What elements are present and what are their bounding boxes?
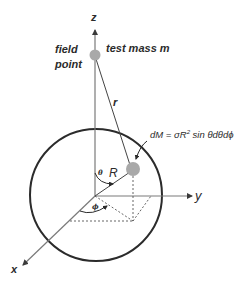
theta-label: θ (98, 169, 103, 176)
test-mass-dot (90, 50, 101, 61)
z-axis-label: z (91, 12, 97, 23)
mass-element-dM (126, 162, 140, 176)
field-point-label-line2: point (55, 59, 82, 70)
test-mass-label: test mass m (106, 43, 170, 54)
distance-line-r (96, 59, 130, 165)
shell-diagram: z y x field point test mass m r R θ ϕ dM… (0, 0, 252, 289)
field-point-label-line1: field (55, 44, 78, 55)
x-axis (23, 196, 95, 265)
mass-element-formula: dM = σR2 sin θdθdϕ (150, 129, 234, 140)
phi-label: ϕ (92, 203, 99, 210)
R-label: R (109, 167, 118, 179)
x-axis-label: x (11, 264, 17, 275)
formula-lhs: dM = σR (150, 129, 187, 140)
y-axis-label: y (195, 189, 202, 202)
r-label: r (113, 97, 117, 108)
projection-lines (70, 176, 151, 221)
formula-rhs: sin θdθdϕ (190, 129, 234, 140)
